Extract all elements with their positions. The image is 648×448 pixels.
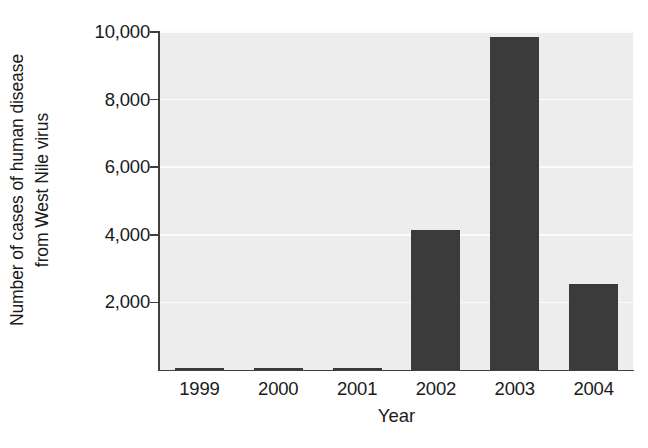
bar [569, 284, 618, 370]
y-axis-tick-label: 6,000 [64, 158, 150, 177]
x-axis-tick-label: 2000 [239, 377, 318, 401]
y-axis-tick-label: 4,000 [64, 226, 150, 245]
bar [490, 37, 539, 370]
y-axis-title-line-2: from West Nile virus [30, 54, 55, 326]
y-axis-tick-label: 10,000 [64, 23, 150, 42]
x-axis-title: Year [160, 405, 633, 427]
y-axis-tick-labels: 2,0004,0006,0008,00010,000 [58, 0, 150, 380]
bar [411, 230, 460, 370]
x-axis-tick-labels: 199920002001200220032004 [160, 377, 633, 403]
y-axis-title-line-1: Number of cases of human disease [5, 54, 30, 326]
x-axis-tick-label: 2004 [554, 377, 633, 401]
x-axis-tick-label: 2001 [318, 377, 397, 401]
y-axis-line [158, 31, 160, 371]
y-axis-tick-label: 8,000 [64, 91, 150, 110]
plot-area [160, 32, 633, 370]
x-axis-line [158, 370, 634, 372]
y-axis-tick-label: 2,000 [64, 293, 150, 312]
x-axis-tick-label: 2003 [475, 377, 554, 401]
y-axis-title: Number of cases of human disease from We… [0, 0, 60, 380]
bar-chart-figure: Number of cases of human disease from We… [0, 0, 648, 448]
bar-series [160, 32, 633, 370]
x-axis-tick-label: 2002 [397, 377, 476, 401]
x-axis-tick-label: 1999 [160, 377, 239, 401]
